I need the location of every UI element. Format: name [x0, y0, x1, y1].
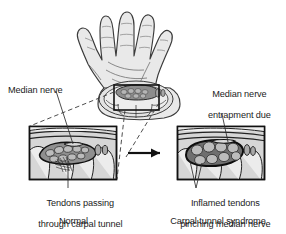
leader-lines [0, 0, 286, 234]
solid-leader-line [222, 114, 228, 142]
solid-leader-line [190, 161, 202, 188]
dashed-leader-line [30, 92, 125, 179]
dashed-leader-line [126, 103, 159, 157]
carpal-tunnel-figure: Median nerve Median nerve entrapment due… [0, 0, 286, 234]
solid-leader-line [56, 91, 73, 144]
